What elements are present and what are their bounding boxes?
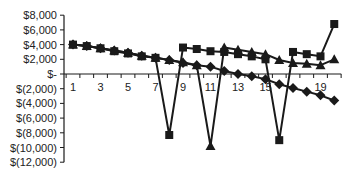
square-marker bbox=[330, 20, 338, 28]
square-marker bbox=[317, 52, 325, 60]
square-marker bbox=[207, 47, 215, 55]
x-tick-label: 1 bbox=[70, 81, 76, 93]
square-marker bbox=[193, 45, 201, 53]
diamond-marker bbox=[206, 62, 216, 72]
series-square bbox=[69, 20, 338, 144]
diamond-marker bbox=[274, 79, 284, 89]
y-tick-label: $(4,000) bbox=[16, 97, 57, 109]
square-marker bbox=[275, 136, 283, 144]
diamond-marker bbox=[302, 87, 312, 97]
y-tick-label: $(12,000) bbox=[10, 156, 57, 168]
diamond-marker bbox=[233, 69, 243, 79]
y-tick-label: $2,000 bbox=[23, 53, 57, 65]
y-tick-label: $4,000 bbox=[23, 39, 57, 51]
y-tick-label: $(6,000) bbox=[16, 112, 57, 124]
y-tick-label: $(10,000) bbox=[10, 142, 57, 154]
square-marker bbox=[165, 131, 173, 139]
y-tick-label: $(2,000) bbox=[16, 83, 57, 95]
square-marker bbox=[289, 48, 297, 56]
square-marker bbox=[179, 44, 187, 52]
x-tick-label: 7 bbox=[152, 81, 158, 93]
series-line bbox=[73, 24, 334, 140]
x-tick-label: 5 bbox=[125, 81, 131, 93]
series-layer bbox=[68, 20, 339, 150]
square-marker bbox=[303, 50, 311, 58]
triangle-marker bbox=[219, 43, 229, 52]
diamond-marker bbox=[288, 83, 298, 93]
series-triangle bbox=[68, 40, 339, 150]
triangle-marker bbox=[329, 54, 339, 63]
x-tick-label: 11 bbox=[205, 81, 216, 93]
y-tick-label: $- bbox=[47, 68, 57, 80]
x-tick-label: 9 bbox=[180, 81, 186, 93]
x-tick-label: 13 bbox=[232, 81, 244, 93]
y-axis: $8,000$6,000$4,000$2,000$-$(2,000)$(4,00… bbox=[10, 9, 64, 168]
line-chart: $8,000$6,000$4,000$2,000$-$(2,000)$(4,00… bbox=[0, 0, 358, 180]
y-tick-label: $(8,000) bbox=[16, 127, 57, 139]
series-line bbox=[73, 45, 334, 146]
x-tick-label: 3 bbox=[97, 81, 103, 93]
y-tick-label: $8,000 bbox=[23, 9, 57, 21]
diamond-marker bbox=[247, 71, 257, 81]
triangle-marker bbox=[206, 141, 216, 150]
diamond-marker bbox=[329, 95, 339, 105]
y-tick-label: $6,000 bbox=[23, 24, 57, 36]
